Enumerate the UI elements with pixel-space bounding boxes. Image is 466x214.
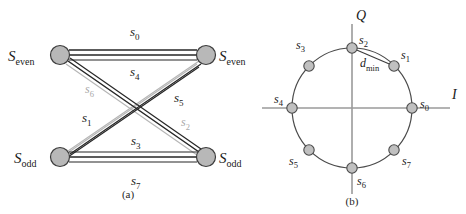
edge-label-s0-sub: 0 (135, 32, 140, 42)
constellation-label-s1-sub: 1 (406, 54, 410, 64)
edge-label-s7-sub: 7 (136, 181, 141, 191)
edge-label-s3-sub: 3 (136, 141, 141, 151)
edge-label-s5-sub: 5 (179, 98, 184, 108)
constellation-point-s0[interactable] (407, 103, 417, 113)
state-label-top-right-sub: even (227, 56, 246, 67)
state-node-bottom-right[interactable] (197, 148, 216, 167)
constellation-label-s7-sub: 7 (407, 160, 411, 170)
constellation-point-s6[interactable] (347, 163, 357, 173)
panel-a-caption: (a) (122, 188, 135, 201)
edge-label-s1-sub: 1 (87, 118, 92, 128)
d-min-label-sub: min (366, 63, 380, 73)
state-node-top-left[interactable] (51, 46, 70, 65)
constellation-label-s7: s7 (402, 154, 411, 170)
constellation-point-s4[interactable] (287, 103, 297, 113)
constellation-label-s3: s3 (296, 38, 305, 54)
edge-label-s6: s6 (85, 82, 94, 99)
edge-label-s0: s0 (130, 24, 140, 42)
constellation-label-s6: s6 (357, 174, 366, 190)
edge-label-s4: s4 (130, 64, 140, 82)
panel-a-group: Seven Seven Sodd Sodd s0 s4 s6 (8, 24, 245, 201)
state-label-bottom-right: Sodd (219, 150, 242, 169)
constellation-label-s0: s0 (420, 97, 429, 113)
constellation-label-s2: s2 (359, 33, 368, 49)
constellation-label-s5-sub: 5 (294, 160, 298, 170)
constellation-label-s1: s1 (401, 48, 410, 64)
axis-label-q: Q (356, 8, 366, 23)
edge-label-s4-sub: 4 (135, 72, 140, 82)
edge-label-s2-sub: 2 (186, 122, 190, 132)
constellation-label-s0-sub: 0 (425, 103, 429, 113)
panel-b-caption: (b) (346, 195, 359, 208)
constellation-point-s3[interactable] (304, 61, 314, 71)
constellation-point-s7[interactable] (389, 145, 399, 155)
constellation-point-s1[interactable] (389, 61, 399, 71)
state-label-bottom-left: Sodd (14, 150, 37, 169)
axis-label-i: I (451, 87, 458, 102)
edge-label-s6-sub: 6 (90, 89, 94, 99)
state-label-top-left: Seven (8, 48, 34, 67)
state-node-top-right[interactable] (197, 46, 216, 65)
constellation-label-s4-sub: 4 (279, 98, 284, 108)
state-label-top-right: Seven (219, 48, 245, 67)
figure-root: Seven Seven Sodd Sodd s0 s4 s6 (0, 0, 466, 214)
figure-canvas: Seven Seven Sodd Sodd s0 s4 s6 (0, 0, 466, 214)
state-node-bottom-left[interactable] (51, 148, 70, 167)
constellation-label-s3-sub: 3 (301, 44, 305, 54)
edge-label-s2: s2 (181, 115, 190, 132)
edge-label-s3: s3 (131, 133, 141, 151)
constellation-label-s6-sub: 6 (362, 180, 366, 190)
edge-label-s1: s1 (82, 110, 92, 128)
edge-label-s5: s5 (174, 90, 184, 108)
constellation-label-s2-sub: 2 (364, 39, 368, 49)
constellation-label-s4: s4 (274, 92, 284, 108)
panel-b-group: I Q dmin s0 s1 (262, 8, 458, 208)
state-label-bottom-left-sub: odd (22, 158, 37, 169)
constellation-point-s5[interactable] (304, 145, 314, 155)
state-label-top-left-sub: even (16, 56, 35, 67)
constellation-point-s2[interactable] (347, 43, 357, 53)
state-label-bottom-right-sub: odd (227, 158, 242, 169)
constellation-label-s5: s5 (289, 154, 298, 170)
